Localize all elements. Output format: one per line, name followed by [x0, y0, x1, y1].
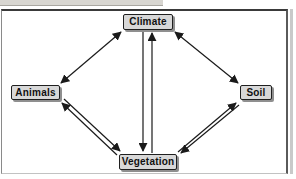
node-animals: Animals [11, 85, 60, 100]
node-soil-label: Soil [246, 87, 265, 98]
arrow-climate-soil [175, 32, 238, 83]
arrow-animals-to-vegetation [64, 99, 120, 151]
arrow-vegetation-to-soil [178, 103, 236, 152]
diagram-canvas: Climate Animals Soil Vegetation [0, 0, 296, 179]
node-climate-label: Climate [129, 16, 167, 27]
arrow-climate-animals [61, 32, 121, 83]
arrow-soil-to-vegetation [181, 105, 239, 153]
node-soil: Soil [240, 85, 272, 100]
node-vegetation-label: Vegetation [122, 156, 175, 167]
node-climate: Climate [123, 14, 173, 30]
node-animals-label: Animals [15, 87, 55, 98]
arrow-vegetation-to-animals [62, 103, 117, 155]
node-vegetation: Vegetation [119, 154, 177, 170]
